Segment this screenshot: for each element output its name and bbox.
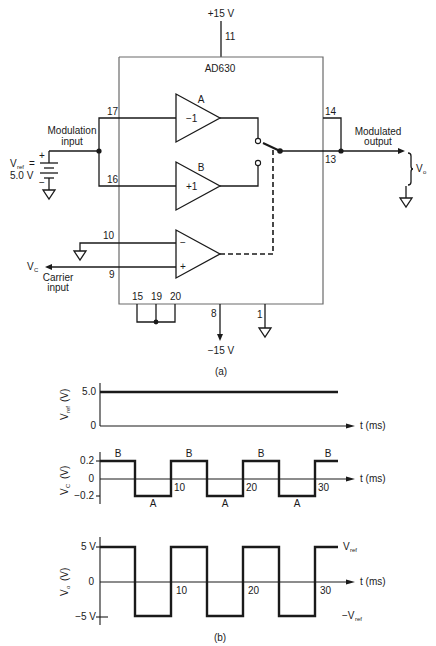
tick-label: −0.2 [74, 490, 94, 501]
output-arrow-icon [398, 148, 405, 154]
chip-name: AD630 [205, 63, 236, 74]
svg-text:V: V [59, 488, 70, 495]
x-tick-label: 30 [320, 585, 332, 596]
ground-icon [74, 251, 86, 260]
comparator-plus: + [180, 261, 186, 272]
pin-11-label: 11 [225, 31, 236, 42]
amp-b-output-wire [220, 166, 258, 186]
supply-negative-arrow-icon [217, 334, 223, 341]
carrier-arrow-icon [45, 264, 52, 270]
x-axis-label: t (ms) [360, 420, 386, 431]
pin-14-label: 14 [325, 106, 337, 117]
y-axis-label: V C (V) [59, 466, 71, 495]
vref-low-sub: ref [355, 616, 362, 622]
figure: +15 V 11 AD630 A −1 B +1 − + 17 16 Modul… [0, 0, 436, 646]
vref-low-label: −V [342, 610, 355, 621]
chart-vref: 5.0 0 t (ms) V ref (V) [59, 383, 386, 431]
x-axis-label: t (ms) [360, 576, 386, 587]
tick-label: 5.0 [82, 386, 96, 397]
x-axis-arrow-icon [346, 424, 355, 429]
x-axis-arrow-icon [346, 477, 355, 482]
svg-text:V: V [59, 589, 70, 596]
y-axis-label: V o (V) [59, 568, 71, 596]
switch-contact-a [255, 138, 260, 143]
vref-value: 5.0 V [10, 170, 34, 181]
pin-20-label: 20 [170, 291, 182, 302]
modulation-input-label-1: Modulation [48, 125, 97, 136]
vref-label: V [10, 158, 17, 169]
chart-vo: 5 V 0 −5 V 10 20 30 t (ms) V ref −V ref … [59, 537, 386, 625]
pin-16-label: 16 [107, 174, 119, 185]
pin-1-label: 1 [257, 309, 263, 320]
pin-9-label: 9 [109, 269, 115, 280]
x-tick-label: 10 [176, 585, 188, 596]
tick-label: 5 V [81, 541, 96, 552]
y-axis-label: V ref (V) [59, 389, 71, 420]
svg-text:ref: ref [65, 406, 71, 413]
svg-text:(V): (V) [59, 389, 70, 402]
input-junction-dot [96, 148, 101, 153]
battery-minus-sign: − [39, 177, 45, 188]
state-b-label: B [186, 448, 193, 459]
svg-text:(V): (V) [59, 466, 70, 479]
x-tick-label: 20 [248, 585, 260, 596]
ground-icon [400, 198, 412, 207]
vref-high-sub: ref [350, 547, 357, 553]
output-junction-dot [338, 148, 343, 153]
state-b-label: B [258, 448, 265, 459]
circuit-diagram: +15 V 11 AD630 A −1 B +1 − + 17 16 Modul… [10, 8, 427, 377]
pin-19-label: 19 [151, 291, 163, 302]
tick-label: 0 [88, 576, 94, 587]
state-b-label: B [115, 448, 122, 459]
modulation-input-label-2: input [61, 136, 83, 147]
x-tick-label: 20 [246, 482, 258, 493]
vref-equals: = [29, 158, 35, 169]
caption-a: (a) [215, 366, 227, 377]
state-a-label: A [150, 498, 157, 509]
x-tick-label: 10 [174, 482, 186, 493]
chart-vc: 0.2 0 −0.2 B B B B A A A 10 20 30 t (ms)… [59, 448, 386, 509]
pin-10-label: 10 [103, 230, 115, 241]
svg-text:V: V [59, 413, 70, 420]
vref-high-label: V [343, 541, 350, 552]
vo-brace [408, 153, 413, 185]
x-axis-arrow-icon [346, 580, 355, 585]
state-a-label: A [294, 498, 301, 509]
vc-label: V [27, 261, 34, 272]
vo-label: V [416, 163, 423, 174]
amplifier-a-gain: −1 [186, 113, 198, 124]
pin-13-label: 13 [325, 154, 337, 165]
switch-arm [263, 143, 280, 151]
pin-14-feedback-wire [323, 118, 341, 151]
svg-text:C: C [65, 483, 71, 488]
carrier-input-label-2: input [47, 282, 69, 293]
comparator-minus: − [180, 237, 186, 248]
tick-label: 0 [88, 473, 94, 484]
vo-sub: o [423, 169, 427, 175]
tick-label: −5 V [75, 611, 96, 622]
caption-b: (b) [214, 632, 226, 643]
switch-control-dashed-line [220, 147, 273, 254]
battery-plus-sign: + [39, 150, 45, 161]
x-axis-label: t (ms) [360, 473, 386, 484]
state-a-label: A [222, 498, 229, 509]
pin-10-wire [80, 243, 176, 251]
tick-label: 0.2 [80, 455, 94, 466]
amplifier-b-gain: +1 [186, 181, 198, 192]
pin-15-label: 15 [132, 291, 144, 302]
supply-positive-label: +15 V [208, 8, 235, 19]
amplifier-a-name: A [198, 94, 205, 105]
pin-8-label: 8 [211, 308, 217, 319]
amp-a-output-wire [220, 118, 258, 138]
x-tick-label: 30 [318, 482, 330, 493]
svg-text:o: o [65, 585, 71, 589]
vc-sub: C [34, 267, 39, 273]
modulated-output-label-2: output [364, 136, 392, 147]
pin-17-label: 17 [107, 106, 119, 117]
supply-negative-label: −15 V [208, 345, 235, 356]
state-b-label: B [325, 448, 332, 459]
ground-icon [259, 328, 271, 337]
tick-label: 0 [90, 420, 96, 431]
svg-text:(V): (V) [59, 568, 70, 581]
amplifier-b-name: B [198, 162, 205, 173]
